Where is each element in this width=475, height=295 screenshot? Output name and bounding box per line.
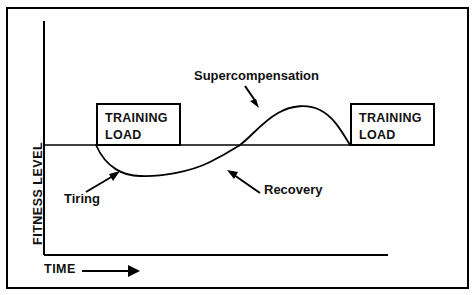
diagram-canvas bbox=[0, 0, 475, 295]
training-load-right-line2: LOAD bbox=[359, 127, 433, 144]
tiring-label: Tiring bbox=[64, 191, 100, 206]
training-load-left-line2: LOAD bbox=[105, 127, 179, 144]
supercompensation-diagram: TRAINING LOAD TRAINING LOAD Supercompens… bbox=[0, 0, 475, 295]
recovery-label: Recovery bbox=[264, 182, 323, 197]
training-load-box-left: TRAINING LOAD bbox=[96, 103, 181, 146]
training-load-box-right: TRAINING LOAD bbox=[350, 103, 435, 146]
supercompensation-arrow-icon bbox=[245, 86, 259, 108]
tiring-arrow-icon bbox=[86, 171, 120, 192]
training-load-right-line1: TRAINING bbox=[359, 110, 433, 127]
time-arrow-icon bbox=[82, 265, 140, 277]
recovery-arrow-icon bbox=[227, 170, 260, 193]
y-axis-label: FITNESS LEVEL bbox=[31, 138, 46, 248]
training-load-left-line1: TRAINING bbox=[105, 110, 179, 127]
outer-border bbox=[7, 8, 468, 288]
x-axis-label: TIME bbox=[44, 262, 76, 277]
supercompensation-label: Supercompensation bbox=[194, 68, 319, 83]
